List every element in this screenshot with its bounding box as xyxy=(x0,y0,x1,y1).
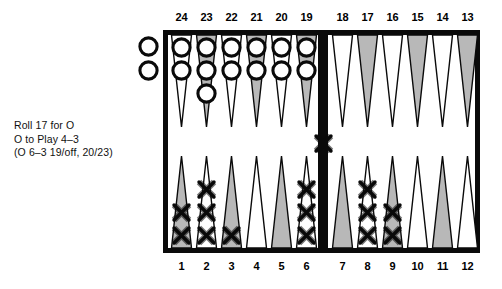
checker-o-point-21[interactable] xyxy=(246,60,267,81)
point-number-13: 13 xyxy=(455,10,481,24)
point-number-16: 16 xyxy=(380,10,406,24)
checker-x-point-6[interactable] xyxy=(296,202,317,223)
checker-o-point-23[interactable] xyxy=(196,37,217,58)
checker-o-point-22[interactable] xyxy=(221,60,242,81)
checker-o-point-20[interactable] xyxy=(271,37,292,58)
game-board xyxy=(163,30,480,253)
backgammon-diagram: Roll 17 for O O to Play 4–3 (O 6–3 19/of… xyxy=(0,0,502,289)
point-18[interactable] xyxy=(331,35,354,128)
point-11[interactable] xyxy=(431,155,454,248)
point-number-14: 14 xyxy=(430,10,456,24)
point-17[interactable] xyxy=(356,35,379,128)
checker-x-point-6[interactable] xyxy=(296,225,317,246)
checker-o-point-21[interactable] xyxy=(246,37,267,58)
checker-o-point-24[interactable] xyxy=(171,37,192,58)
checker-o-point-24[interactable] xyxy=(171,60,192,81)
caption-line-moves: (O 6–3 19/off, 20/23) xyxy=(14,146,164,160)
board-playing-surface xyxy=(168,35,475,248)
checker-x-point-6[interactable] xyxy=(296,179,317,200)
point-number-6: 6 xyxy=(294,259,320,273)
caption-line-play: O to Play 4–3 xyxy=(14,133,164,147)
point-number-11: 11 xyxy=(430,259,456,273)
checker-x-point-8[interactable] xyxy=(357,225,378,246)
point-7[interactable] xyxy=(331,155,354,248)
checker-x-point-9[interactable] xyxy=(382,225,403,246)
point-number-20: 20 xyxy=(269,10,295,24)
checker-x-point-8[interactable] xyxy=(357,202,378,223)
point-4[interactable] xyxy=(245,155,268,248)
checker-o-point-22[interactable] xyxy=(221,37,242,58)
point-number-3: 3 xyxy=(219,259,245,273)
point-number-1: 1 xyxy=(169,259,195,273)
point-16[interactable] xyxy=(381,35,404,128)
point-13[interactable] xyxy=(456,35,479,128)
checker-o-borne-off[interactable] xyxy=(138,36,159,57)
point-number-2: 2 xyxy=(194,259,220,273)
checker-o-point-19[interactable] xyxy=(296,37,317,58)
checker-x-point-8[interactable] xyxy=(357,179,378,200)
checker-x-point-2[interactable] xyxy=(196,202,217,223)
point-number-22: 22 xyxy=(219,10,245,24)
bottom-point-numbers: 123456789101112 xyxy=(0,259,502,273)
point-15[interactable] xyxy=(406,35,429,128)
checker-x-point-3[interactable] xyxy=(221,225,242,246)
borne-off-tray-o xyxy=(138,36,162,86)
point-number-18: 18 xyxy=(330,10,356,24)
checker-x-point-1[interactable] xyxy=(171,225,192,246)
point-number-23: 23 xyxy=(194,10,220,24)
position-caption: Roll 17 for O O to Play 4–3 (O 6–3 19/of… xyxy=(14,119,164,160)
point-number-24: 24 xyxy=(169,10,195,24)
point-number-12: 12 xyxy=(455,259,481,273)
point-number-7: 7 xyxy=(330,259,356,273)
checker-x-point-2[interactable] xyxy=(196,225,217,246)
checker-o-point-20[interactable] xyxy=(271,60,292,81)
checker-o-point-19[interactable] xyxy=(296,60,317,81)
point-number-21: 21 xyxy=(244,10,270,24)
point-number-9: 9 xyxy=(380,259,406,273)
point-5[interactable] xyxy=(270,155,293,248)
point-number-8: 8 xyxy=(355,259,381,273)
point-number-10: 10 xyxy=(405,259,431,273)
checker-x-point-2[interactable] xyxy=(196,179,217,200)
point-number-5: 5 xyxy=(269,259,295,273)
top-point-numbers: 242322212019181716151413 xyxy=(0,10,502,24)
point-number-19: 19 xyxy=(294,10,320,24)
point-number-4: 4 xyxy=(244,259,270,273)
checker-x-point-1[interactable] xyxy=(171,202,192,223)
checker-x-on-bar[interactable] xyxy=(313,133,334,154)
point-14[interactable] xyxy=(431,35,454,128)
point-12[interactable] xyxy=(456,155,479,248)
checker-x-point-9[interactable] xyxy=(382,202,403,223)
checker-o-point-23[interactable] xyxy=(196,60,217,81)
checker-o-borne-off[interactable] xyxy=(138,60,159,81)
checker-o-point-23[interactable] xyxy=(196,83,217,104)
point-number-15: 15 xyxy=(405,10,431,24)
point-number-17: 17 xyxy=(355,10,381,24)
caption-line-roll: Roll 17 for O xyxy=(14,119,164,133)
point-10[interactable] xyxy=(406,155,429,248)
